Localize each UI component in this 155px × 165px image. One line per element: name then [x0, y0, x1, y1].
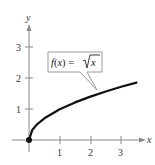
y-tick-label-3: 3 — [16, 42, 21, 53]
origin-point — [26, 137, 32, 143]
x-axis-arrow-icon — [139, 138, 146, 143]
x-tick-label-2: 2 — [88, 147, 93, 158]
x-tick-label-1: 1 — [57, 147, 62, 158]
y-tick-label-1: 1 — [16, 104, 21, 115]
chart: x y 1 2 3 1 2 3 f(x) = x — [0, 0, 155, 165]
y-tick-label-2: 2 — [16, 73, 21, 84]
y-axis-arrow-icon — [27, 24, 32, 31]
function-callout: f(x) = x — [48, 52, 102, 90]
x-axis-label: x — [146, 134, 152, 145]
callout-text: f(x) = — [51, 57, 74, 69]
sqrt-curve — [29, 83, 137, 140]
callout-radicand: x — [90, 57, 96, 68]
y-axis-label: y — [25, 12, 31, 23]
x-tick-label-3: 3 — [118, 147, 123, 158]
